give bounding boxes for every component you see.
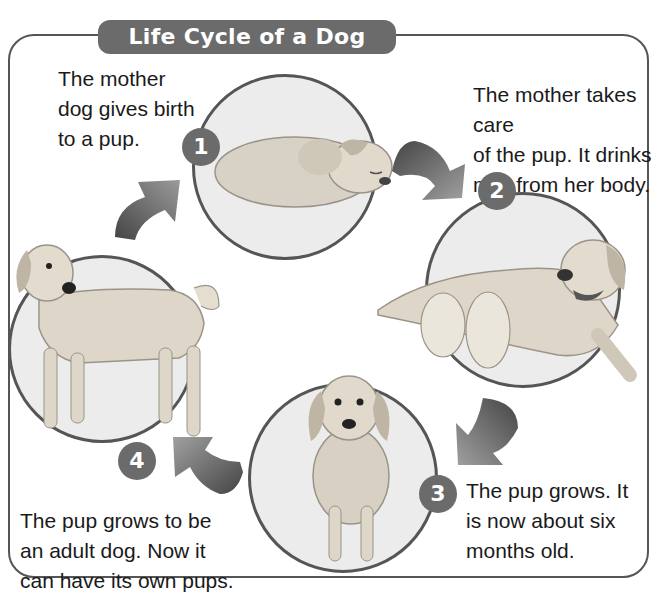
arrow-1-to-2-icon bbox=[390, 136, 470, 201]
young-puppy-image bbox=[281, 366, 411, 566]
caption-line: The pup grows to be bbox=[20, 506, 234, 536]
stage-2-circle bbox=[425, 192, 621, 388]
stage-3-badge: 3 bbox=[419, 475, 457, 513]
stage-4-badge: 4 bbox=[118, 442, 156, 480]
caption-line: to a pup. bbox=[58, 124, 195, 154]
caption-line: is now about six bbox=[466, 506, 628, 536]
diagram-title: Life Cycle of a Dog bbox=[98, 20, 396, 54]
stage-4-circle bbox=[8, 255, 196, 443]
caption-line: months old. bbox=[466, 536, 628, 566]
arrow-3-to-4-icon bbox=[165, 432, 245, 497]
caption-line: can have its own pups. bbox=[20, 566, 234, 596]
stage-3-circle bbox=[248, 383, 438, 573]
caption-line: The pup grows. It bbox=[466, 476, 628, 506]
caption-line: The mother takes care bbox=[473, 80, 661, 140]
caption-line: of the pup. It drinks bbox=[473, 140, 661, 170]
stage-4-caption: The pup grows to be an adult dog. Now it… bbox=[20, 506, 234, 596]
stage-1-caption: The mother dog gives birth to a pup. bbox=[58, 64, 195, 154]
adult-dog-image bbox=[9, 228, 229, 448]
caption-line: The mother bbox=[58, 64, 195, 94]
caption-line: an adult dog. Now it bbox=[20, 536, 234, 566]
stage-2-badge: 2 bbox=[478, 172, 516, 210]
newborn-puppy-image bbox=[200, 117, 400, 227]
mother-and-puppies-image bbox=[368, 215, 648, 385]
caption-line: dog gives birth bbox=[58, 94, 195, 124]
arrow-4-to-1-icon bbox=[110, 172, 185, 242]
stage-3-caption: The pup grows. It is now about six month… bbox=[466, 476, 628, 566]
stage-1-badge: 1 bbox=[182, 128, 220, 166]
arrow-2-to-3-icon bbox=[448, 393, 523, 468]
